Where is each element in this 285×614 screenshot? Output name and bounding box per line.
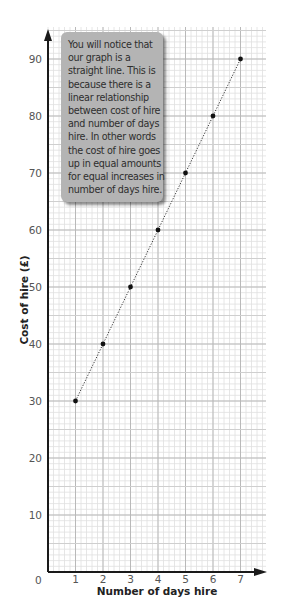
y-tick-label: 50 — [29, 281, 42, 293]
callout-annotation: You will notice thatour graph is astraig… — [61, 32, 163, 202]
data-point — [211, 114, 216, 119]
data-point — [101, 342, 106, 347]
data-point — [73, 399, 78, 404]
callout-line: number of days hire. — [68, 183, 159, 196]
callout-line: our graph is a — [68, 51, 159, 64]
x-tick-label: 2 — [100, 573, 107, 585]
callout-line: You will notice that — [68, 38, 159, 51]
x-tick-label: 4 — [155, 573, 162, 585]
x-tick-label: 6 — [210, 573, 217, 585]
data-point — [156, 228, 161, 233]
callout-line: hire. In other words — [68, 130, 159, 143]
y-axis-title: Cost of hire (£) — [18, 255, 30, 344]
y-tick-label: 30 — [29, 395, 42, 407]
data-point — [128, 285, 133, 290]
origin-label: 0 — [35, 574, 42, 586]
callout-line: for equal increases in — [68, 170, 159, 183]
x-tick-label: 7 — [237, 573, 244, 585]
y-tick-label: 20 — [29, 452, 42, 464]
y-tick-label: 40 — [29, 338, 42, 350]
data-point — [183, 171, 188, 176]
y-tick-label: 60 — [29, 224, 42, 236]
callout-line: between cost of hire — [68, 104, 159, 117]
callout-line: linear relationship — [68, 91, 159, 104]
y-tick-label: 90 — [29, 53, 42, 65]
x-tick-label: 5 — [182, 573, 189, 585]
x-axis-title: Number of days hire — [97, 585, 218, 597]
y-tick-label: 10 — [29, 509, 42, 521]
callout-line: and number of days — [68, 117, 159, 130]
y-tick-label: 70 — [29, 167, 42, 179]
callout-line: straight line. This is — [68, 64, 159, 77]
callout-line: because there is a — [68, 78, 159, 91]
y-tick-label: 80 — [29, 110, 42, 122]
callout-line: the cost of hire goes — [68, 144, 159, 157]
data-point — [238, 57, 243, 62]
x-tick-label: 1 — [72, 573, 79, 585]
x-tick-label: 3 — [127, 573, 134, 585]
callout-line: up in equal amounts — [68, 157, 159, 170]
